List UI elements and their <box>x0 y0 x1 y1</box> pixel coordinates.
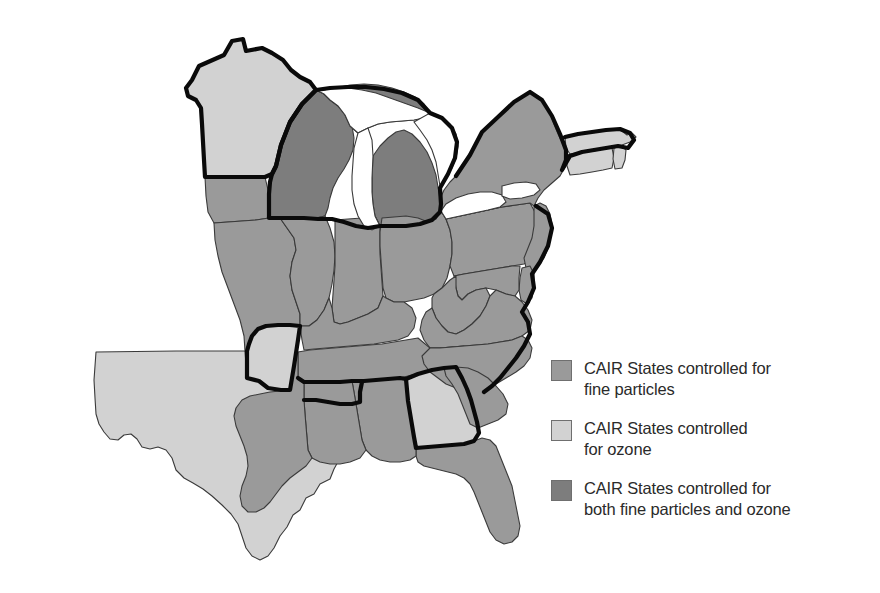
state-IN <box>332 218 383 324</box>
map-legend: CAIR States controlled for fine particle… <box>551 358 871 538</box>
legend-swatch-fine-particles <box>551 360 572 381</box>
legend-swatch-both <box>551 480 572 501</box>
state-RI <box>613 146 626 169</box>
legend-label-ozone: CAIR States controlled for ozone <box>584 418 748 460</box>
cair-states-figure: .st { stroke: #3a3a3a; stroke-width: 1.1… <box>0 0 880 593</box>
legend-item-fine-particles[interactable]: CAIR States controlled for fine particle… <box>551 358 871 400</box>
legend-item-ozone[interactable]: CAIR States controlled for ozone <box>551 418 871 460</box>
state-IA <box>205 177 269 223</box>
legend-swatch-ozone <box>551 420 572 441</box>
legend-label-fine-particles: CAIR States controlled for fine particle… <box>584 358 771 400</box>
state-FL <box>416 438 520 544</box>
legend-label-both: CAIR States controlled for both fine par… <box>584 478 791 520</box>
legend-item-both[interactable]: CAIR States controlled for both fine par… <box>551 478 871 520</box>
